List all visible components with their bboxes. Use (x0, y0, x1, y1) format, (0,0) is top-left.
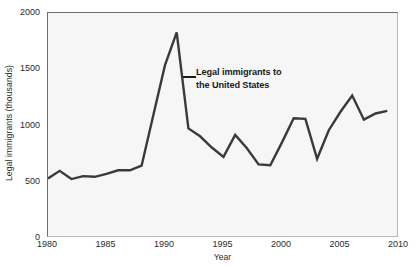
x-axis-tick-labels: 1980198519901995200020052010 (0, 0, 416, 269)
x-axis-title: Year (47, 252, 398, 262)
x-axis-tick-1990: 1990 (154, 239, 174, 249)
x-axis-tick-2000: 2000 (271, 239, 291, 249)
x-axis-tick-1980: 1980 (37, 239, 57, 249)
x-axis-tick-1985: 1985 (95, 239, 115, 249)
x-axis-tick-1995: 1995 (212, 239, 232, 249)
immigration-line-chart: Legal immigrants (thousands) 05001000150… (0, 0, 416, 269)
x-axis-tick-2010: 2010 (388, 239, 408, 249)
x-axis-tick-2005: 2005 (329, 239, 349, 249)
